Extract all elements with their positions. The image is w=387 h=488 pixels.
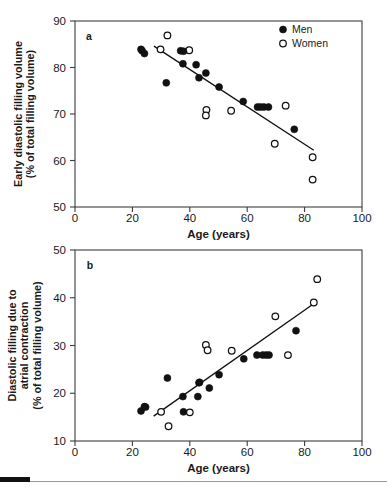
data-point-women bbox=[228, 107, 235, 114]
x-tick-label: 80 bbox=[298, 446, 311, 458]
x-tick-label: 0 bbox=[72, 212, 78, 224]
y-tick-label: 50 bbox=[53, 201, 66, 213]
x-tick-label: 40 bbox=[183, 446, 196, 458]
data-point-men bbox=[193, 61, 200, 68]
y-tick-label: 80 bbox=[53, 62, 66, 74]
data-point-women bbox=[310, 299, 317, 306]
chart-panel-a: 0204060801005060708090Age (years)Early d… bbox=[0, 0, 387, 244]
regression-line bbox=[154, 46, 314, 150]
footer-divider bbox=[0, 481, 387, 482]
x-tick-label: 60 bbox=[241, 212, 254, 224]
y-tick-label: 10 bbox=[53, 435, 66, 447]
x-tick-label: 100 bbox=[352, 446, 371, 458]
data-point-women bbox=[203, 112, 210, 119]
data-point-men bbox=[292, 327, 299, 334]
y-tick-label: 40 bbox=[53, 292, 66, 304]
y-axis-title-line: atrial contraction bbox=[18, 302, 30, 390]
legend-marker-women bbox=[280, 40, 287, 47]
x-tick-label: 0 bbox=[72, 446, 78, 458]
data-point-men bbox=[180, 48, 187, 55]
y-tick-label: 30 bbox=[53, 340, 66, 352]
legend-label-women: Women bbox=[292, 37, 328, 49]
figure-scatter-panels: 0204060801005060708090Age (years)Early d… bbox=[0, 0, 387, 488]
data-point-men bbox=[216, 371, 223, 378]
data-point-women bbox=[282, 102, 289, 109]
y-tick-label: 70 bbox=[53, 108, 66, 120]
x-tick-label: 80 bbox=[298, 212, 311, 224]
data-point-men bbox=[240, 355, 247, 362]
x-tick-label: 100 bbox=[352, 212, 371, 224]
data-point-men bbox=[202, 70, 209, 77]
y-tick-label: 20 bbox=[53, 387, 66, 399]
data-point-men bbox=[265, 104, 272, 111]
data-point-men bbox=[266, 352, 273, 359]
x-tick-label: 20 bbox=[126, 446, 139, 458]
y-tick-label: 90 bbox=[53, 15, 66, 27]
data-point-women bbox=[165, 423, 172, 430]
data-point-men bbox=[142, 404, 149, 411]
x-tick-label: 60 bbox=[241, 446, 254, 458]
panel-b-plot: 0204060801001020304050Age (years)Diastol… bbox=[0, 244, 387, 476]
data-point-men bbox=[240, 98, 247, 105]
data-point-women bbox=[314, 276, 321, 283]
data-point-women bbox=[158, 409, 165, 416]
chart-panel-b: 0204060801001020304050Age (years)Diastol… bbox=[0, 244, 387, 476]
y-axis-title-line: (% of total filling volume) bbox=[24, 49, 36, 178]
data-point-women bbox=[187, 409, 194, 416]
y-axis-title-line: Early diastolic filling volume bbox=[12, 41, 24, 187]
y-axis-title-line: (% of total filling volume) bbox=[31, 281, 43, 410]
data-point-men bbox=[196, 379, 203, 386]
data-point-women bbox=[309, 154, 316, 161]
data-point-men bbox=[179, 393, 186, 400]
legend-marker-men bbox=[280, 26, 287, 33]
y-axis-title-line: Diastolic filling due to bbox=[6, 289, 18, 402]
x-axis-title: Age (years) bbox=[187, 228, 250, 240]
data-point-women bbox=[271, 140, 278, 147]
y-tick-label: 60 bbox=[53, 155, 66, 167]
data-point-women bbox=[204, 347, 211, 354]
data-point-women bbox=[272, 313, 279, 320]
data-point-men bbox=[216, 84, 223, 91]
data-point-men bbox=[291, 126, 298, 133]
x-axis-title: Age (years) bbox=[187, 462, 250, 474]
data-point-men bbox=[195, 74, 202, 81]
data-point-women bbox=[164, 32, 171, 39]
x-tick-label: 40 bbox=[183, 212, 196, 224]
data-point-men bbox=[206, 385, 213, 392]
footer-black-tab bbox=[0, 477, 30, 482]
panel-a-plot: 0204060801005060708090Age (years)Early d… bbox=[0, 0, 387, 244]
y-tick-label: 50 bbox=[53, 244, 66, 256]
data-point-men bbox=[194, 393, 201, 400]
data-point-women bbox=[157, 46, 164, 53]
data-point-men bbox=[164, 374, 171, 381]
panel-letter: a bbox=[86, 30, 92, 42]
panel-letter: b bbox=[87, 259, 93, 271]
data-point-men bbox=[179, 60, 186, 67]
data-point-women bbox=[309, 176, 316, 183]
legend-label-men: Men bbox=[292, 23, 313, 35]
data-point-men bbox=[180, 408, 187, 415]
data-point-women bbox=[285, 352, 292, 359]
regression-line bbox=[154, 304, 313, 416]
data-point-men bbox=[163, 79, 170, 86]
x-tick-label: 20 bbox=[126, 212, 139, 224]
data-point-women bbox=[228, 347, 235, 354]
data-point-men bbox=[141, 50, 148, 57]
